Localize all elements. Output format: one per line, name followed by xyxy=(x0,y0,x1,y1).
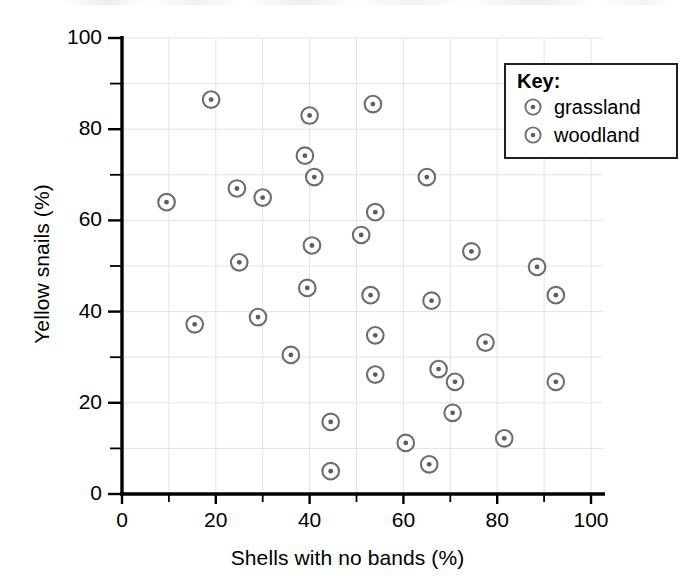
data-point xyxy=(301,107,318,124)
data-point xyxy=(229,180,246,197)
x-tick-label: 100 xyxy=(561,508,621,532)
data-point xyxy=(529,259,546,276)
data-point xyxy=(367,204,384,221)
data-point xyxy=(158,194,175,211)
data-point xyxy=(254,189,271,206)
data-point xyxy=(477,334,494,351)
data-point xyxy=(231,254,248,271)
y-axis-title: Yellow snails (%) xyxy=(30,34,54,494)
data-point xyxy=(186,316,203,333)
x-tick-label: 0 xyxy=(92,508,152,532)
x-axis-title: Shells with no bands (%) xyxy=(0,546,695,570)
x-tick-label: 60 xyxy=(373,508,433,532)
data-point xyxy=(397,435,414,452)
legend-title: Key: xyxy=(517,71,668,92)
data-point xyxy=(421,456,438,473)
data-point xyxy=(463,243,480,260)
x-tick-label: 80 xyxy=(467,508,527,532)
data-point xyxy=(496,430,513,447)
circle-dot-icon xyxy=(523,125,543,145)
data-point xyxy=(353,227,370,244)
data-point xyxy=(367,327,384,344)
data-point xyxy=(304,237,321,254)
data-point xyxy=(444,405,461,422)
circle-dot-icon xyxy=(523,97,543,117)
legend-label-grassland: grassland xyxy=(554,97,641,117)
data-point xyxy=(447,374,464,391)
data-point xyxy=(322,463,339,480)
data-point xyxy=(283,347,300,364)
scatter-plot-figure: 020406080100 020406080100 Shells with no… xyxy=(0,0,695,588)
data-point xyxy=(299,280,316,297)
data-point xyxy=(322,414,339,431)
legend-item-woodland: woodland xyxy=(523,121,668,149)
x-tick-label: 40 xyxy=(280,508,340,532)
data-point xyxy=(203,91,220,108)
data-point xyxy=(306,169,323,186)
legend-label-woodland: woodland xyxy=(554,125,640,145)
data-point xyxy=(548,287,565,304)
y-axis-title-wrapper: Yellow snails (%) xyxy=(30,34,58,494)
legend-item-grassland: grassland xyxy=(523,93,668,121)
data-point xyxy=(297,147,314,164)
data-point xyxy=(430,361,447,378)
data-point xyxy=(367,366,384,383)
data-point xyxy=(423,292,440,309)
data-point xyxy=(419,169,436,186)
data-point xyxy=(250,309,267,326)
data-point xyxy=(362,287,379,304)
data-point xyxy=(548,374,565,391)
data-point xyxy=(365,96,382,113)
legend-key-box: Key: grassland woodland xyxy=(504,63,678,159)
x-tick-label: 20 xyxy=(186,508,246,532)
